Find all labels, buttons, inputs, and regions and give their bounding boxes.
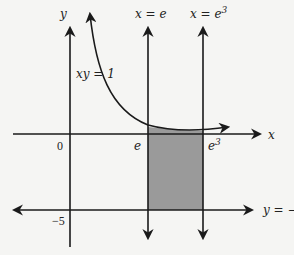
shaded-region: [148, 127, 203, 210]
curve-label: xy = 1: [76, 67, 115, 81]
x-axis-label: x: [268, 128, 275, 142]
origin-label: 0: [57, 139, 63, 153]
diagram-canvas: y x xy = 1 x = e x = e3 y = −5 0 e e3 −5: [0, 0, 294, 255]
tick-e3-label: e3: [208, 137, 221, 153]
tick-e-label: e: [134, 139, 141, 153]
y-axis-label: y: [59, 7, 67, 21]
line-y-neg5-label: y = −5: [262, 203, 294, 217]
line-e3-label: x = e3: [190, 5, 228, 21]
tick-neg5-label: −5: [52, 214, 65, 228]
line-e-label: x = e: [135, 7, 167, 21]
diagram-svg: y x xy = 1 x = e x = e3 y = −5 0 e e3 −5: [0, 0, 294, 255]
